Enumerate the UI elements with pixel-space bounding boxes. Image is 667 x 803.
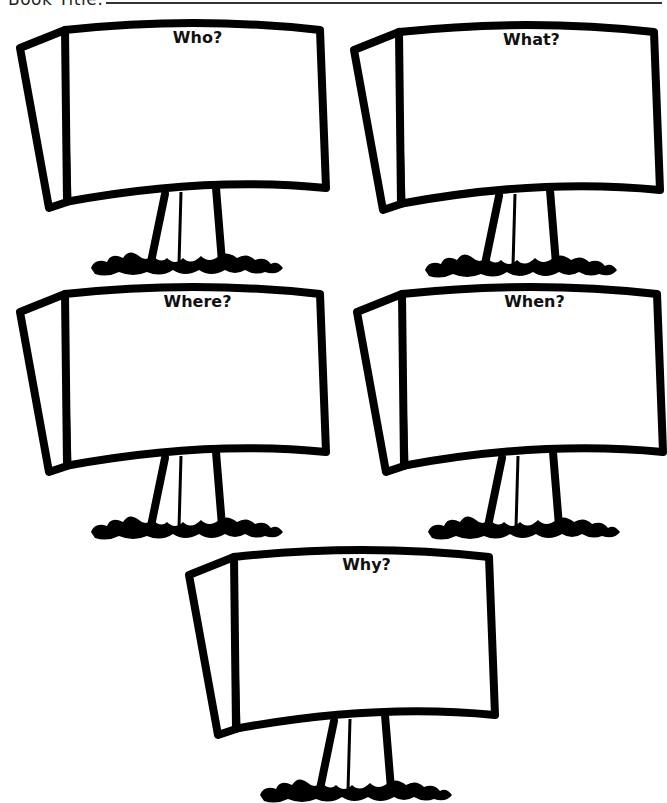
book-title-header: Book Title:	[0, 0, 667, 9]
sign-why: Why?	[184, 545, 509, 803]
answer-area-who[interactable]	[73, 50, 318, 188]
sign-where: Where?	[15, 282, 340, 540]
sign-title-where: Where?	[75, 292, 320, 311]
sign-who: Who?	[15, 18, 340, 276]
sign-title-why: Why?	[244, 555, 489, 574]
sign-title-when: When?	[412, 292, 657, 311]
book-title-label: Book Title:	[8, 0, 103, 9]
answer-area-when[interactable]	[410, 314, 655, 452]
sign-when: When?	[352, 282, 667, 540]
sign-title-what: What?	[409, 30, 654, 49]
answer-area-what[interactable]	[407, 52, 652, 190]
sign-what: What?	[349, 20, 667, 278]
answer-area-why[interactable]	[242, 577, 487, 715]
sign-title-who: Who?	[75, 28, 320, 47]
answer-area-where[interactable]	[73, 314, 318, 452]
book-title-write-line[interactable]	[106, 2, 662, 4]
